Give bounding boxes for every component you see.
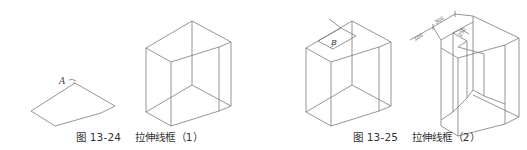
point-label-a: A xyxy=(58,76,66,86)
figure-title: 拉伸线框（2） xyxy=(412,131,480,143)
figure-number: 图 13-24 xyxy=(76,131,121,143)
extruded-prism-2 xyxy=(306,19,391,126)
figure-caption-13-25: 图 13-25 拉伸线框（2） xyxy=(353,129,480,144)
figure-title: 拉伸线框（1） xyxy=(135,131,203,143)
figure-canvas: A B 100 300 250 xyxy=(0,0,527,150)
figure-number: 图 13-25 xyxy=(353,131,398,143)
profile-wireframe xyxy=(31,79,115,126)
figure-caption-13-24: 图 13-24 拉伸线框（1） xyxy=(76,129,203,144)
point-label-b: B xyxy=(330,38,337,47)
extruded-prism-1 xyxy=(146,21,231,126)
